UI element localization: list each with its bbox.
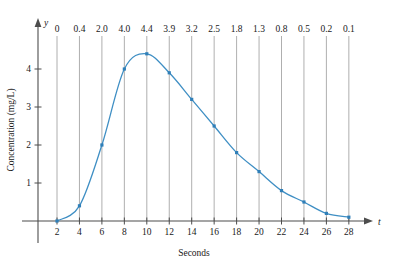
data-point-marker: [325, 212, 328, 215]
x-axis-title: Seconds: [178, 248, 210, 258]
x-axis-arrow: [364, 218, 373, 225]
x-tick-label: 4: [77, 227, 82, 237]
data-point-marker: [257, 170, 260, 173]
y-axis-arrow: [35, 18, 42, 27]
data-value-label: 0.1: [343, 24, 355, 34]
data-point-marker: [123, 67, 126, 70]
data-value-label: 3.9: [163, 24, 175, 34]
data-value-label: 4.4: [141, 24, 153, 34]
x-tick-label: 8: [122, 227, 127, 237]
data-value-label: 0.4: [74, 24, 86, 34]
data-value-labels: 00.42.04.04.43.93.22.51.81.30.80.50.20.1: [55, 24, 355, 34]
data-value-label: 0.5: [298, 24, 310, 34]
y-axis-title: Concentration (mg/L): [6, 88, 17, 171]
y-tick-label: 1: [26, 178, 31, 188]
data-value-label: 2.0: [96, 24, 108, 34]
x-tick-label: 24: [299, 227, 309, 237]
data-value-label: 1.3: [253, 24, 265, 34]
x-tick-label: 28: [344, 227, 354, 237]
y-axis-variable-label: y: [43, 18, 49, 28]
data-point-marker: [235, 151, 238, 154]
x-tick-label: 18: [232, 227, 242, 237]
x-tick-label: 20: [254, 227, 264, 237]
x-tick-label: 10: [142, 227, 152, 237]
data-point-marker: [145, 52, 148, 55]
data-point-marker: [213, 124, 216, 127]
x-tick-label: 22: [277, 227, 287, 237]
concentration-vs-time-chart: 1234 246810121416182022242628 00.42.04.0…: [0, 0, 397, 264]
y-tick-group: 1234: [26, 64, 41, 188]
drop-lines-group: [57, 36, 349, 221]
data-point-marker: [78, 204, 81, 207]
data-value-label: 0: [55, 24, 60, 34]
x-tick-label: 14: [187, 227, 197, 237]
data-point-marker: [190, 98, 193, 101]
data-value-label: 0.8: [276, 24, 288, 34]
data-value-label: 1.8: [231, 24, 243, 34]
data-point-marker: [55, 219, 58, 222]
concentration-curve: [57, 54, 349, 221]
x-tick-label: 12: [165, 227, 175, 237]
data-value-label: 2.5: [208, 24, 220, 34]
data-point-marker: [100, 143, 103, 146]
x-tick-label: 6: [100, 227, 105, 237]
y-tick-label: 3: [26, 102, 31, 112]
axes-group: [22, 18, 373, 243]
data-value-label: 0.2: [320, 24, 332, 34]
x-axis-variable-label: t: [378, 217, 381, 227]
y-tick-label: 4: [26, 64, 31, 74]
x-tick-label: 16: [209, 227, 219, 237]
chart-canvas: 1234 246810121416182022242628 00.42.04.0…: [0, 0, 397, 264]
data-value-label: 4.0: [118, 24, 130, 34]
data-value-label: 3.2: [186, 24, 198, 34]
x-tick-label: 2: [55, 227, 60, 237]
x-tick-label: 26: [322, 227, 332, 237]
data-point-marker: [280, 189, 283, 192]
data-point-marker: [347, 216, 350, 219]
data-point-markers: [55, 52, 350, 222]
x-tick-group: 246810121416182022242628: [55, 218, 354, 238]
data-point-marker: [302, 200, 305, 203]
data-point-marker: [168, 71, 171, 74]
y-tick-label: 2: [26, 140, 31, 150]
